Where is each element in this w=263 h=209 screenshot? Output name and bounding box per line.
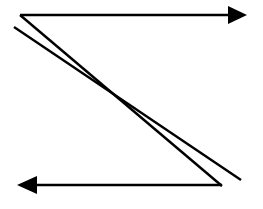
zigzag-scan-path-figure [0,0,263,209]
diagram-canvas [0,0,263,209]
